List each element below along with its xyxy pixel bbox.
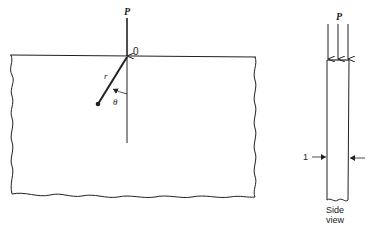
side-view-caption-line1: Side — [326, 205, 344, 215]
radius-label: r — [104, 71, 108, 81]
diagram-canvas: P 0 r θ P 1 Side view — [0, 0, 375, 226]
load-label: P — [124, 6, 131, 17]
side-view-caption-line2: view — [326, 215, 345, 225]
bottom-break-edge — [12, 193, 255, 197]
angle-arc — [113, 89, 127, 94]
side-right-edge — [348, 60, 349, 200]
origin-label: 0 — [133, 46, 139, 57]
right-break-edge — [254, 57, 256, 197]
thickness-label: 1 — [303, 152, 308, 162]
left-break-edge — [11, 55, 14, 194]
point-dot — [96, 102, 101, 107]
half-plane-body — [10, 55, 256, 197]
angle-label: θ — [113, 97, 118, 107]
side-load-label: P — [336, 11, 343, 22]
side-bottom-break — [327, 199, 348, 201]
side-view: P 1 Side view — [303, 11, 365, 225]
